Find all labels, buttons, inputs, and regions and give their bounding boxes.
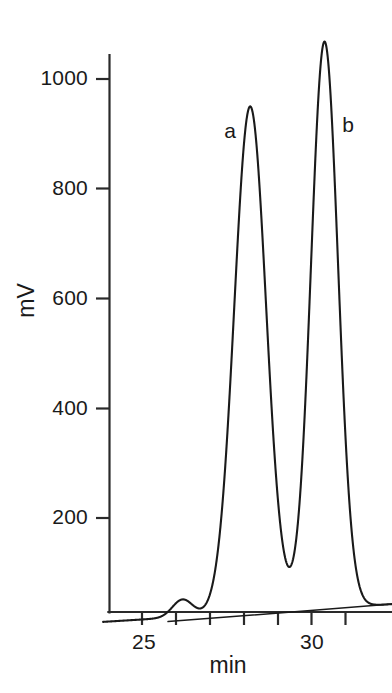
y-tick-label-200: 200 — [30, 505, 88, 529]
y-axis-title: mV — [13, 271, 40, 331]
y-tick-label-400: 400 — [30, 396, 88, 420]
x-tick-label-30: 30 — [290, 630, 334, 654]
axis-lines — [108, 55, 392, 613]
x-tick-label-25: 25 — [122, 630, 166, 654]
chromatogram-figure: 1000 800 600 400 200 25 30 mV min a b — [0, 0, 392, 693]
peak-label-b: b — [339, 113, 357, 137]
y-tick-label-1000: 1000 — [30, 66, 88, 90]
y-tick-label-800: 800 — [30, 176, 88, 200]
peak-label-a: a — [221, 119, 239, 143]
chromatogram-plot — [0, 0, 392, 693]
x-axis-ticks — [142, 612, 346, 625]
y-axis-ticks — [96, 79, 109, 518]
x-axis-title: min — [198, 652, 258, 679]
